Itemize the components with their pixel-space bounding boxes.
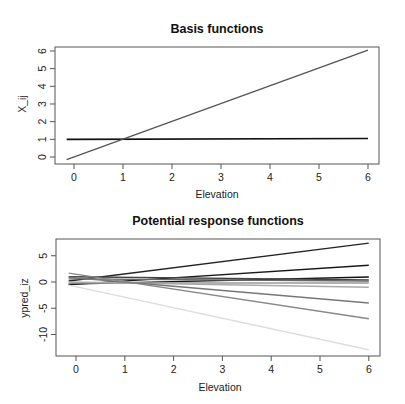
series-line-z10 — [69, 285, 369, 350]
y-tick-label: 4 — [36, 83, 48, 89]
series-lines — [69, 243, 369, 350]
figure-canvas: Basis functions 0123456 0123456 Elevatio… — [0, 0, 405, 404]
y-axis-label: X_ij — [16, 95, 28, 113]
x-axis: 0123456 — [73, 356, 372, 375]
x-tick-label: 2 — [169, 171, 175, 183]
x-tick-label: 4 — [268, 363, 274, 375]
x-tick-label: 1 — [122, 363, 128, 375]
series-line-intercept — [67, 138, 368, 139]
chart-title: Potential response functions — [132, 214, 304, 228]
chart-title: Basis functions — [170, 22, 263, 36]
y-axis-label: ypred_iz — [18, 278, 30, 318]
y-tick-label: 5 — [37, 253, 49, 259]
y-tick-label: 1 — [36, 136, 48, 142]
y-tick-label: -5 — [37, 303, 49, 312]
x-axis-label: Elevation — [198, 381, 241, 393]
x-tick-label: 4 — [267, 171, 273, 183]
y-axis: -10-505 — [37, 253, 56, 342]
x-tick-label: 6 — [365, 171, 371, 183]
x-tick-label: 3 — [219, 363, 225, 375]
x-tick-label: 2 — [171, 363, 177, 375]
x-tick-label: 0 — [71, 171, 77, 183]
y-axis: 0123456 — [36, 48, 55, 160]
basis-functions-chart: Basis functions 0123456 0123456 Elevatio… — [16, 22, 379, 200]
plot-frame — [56, 239, 380, 356]
y-tick-label: 2 — [36, 119, 48, 125]
y-tick-label: 0 — [37, 279, 49, 285]
y-tick-label: 6 — [36, 48, 48, 54]
series-lines — [67, 50, 368, 160]
x-tick-label: 3 — [218, 171, 224, 183]
x-tick-label: 5 — [316, 171, 322, 183]
y-tick-label: 5 — [36, 66, 48, 72]
x-axis: 0123456 — [71, 164, 371, 183]
x-tick-label: 6 — [366, 363, 372, 375]
series-line-elevation — [67, 50, 368, 160]
x-tick-label: 1 — [120, 171, 126, 183]
y-tick-label: 3 — [36, 101, 48, 107]
y-tick-label: -10 — [37, 327, 49, 342]
y-tick-label: 0 — [36, 154, 48, 160]
x-axis-label: Elevation — [195, 188, 238, 200]
x-tick-label: 0 — [73, 363, 79, 375]
potential-response-functions-chart: Potential response functions 0123456 -10… — [18, 214, 380, 393]
x-tick-label: 5 — [317, 363, 323, 375]
